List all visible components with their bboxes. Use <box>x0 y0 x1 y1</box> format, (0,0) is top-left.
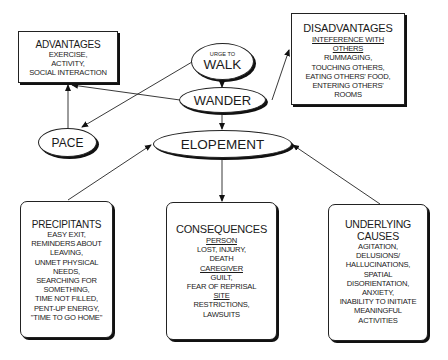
precipitants-title: PRECIPITANTS <box>21 219 112 230</box>
advantages-box: ADVANTAGES EXERCISE, ACTIVITY, SOCIAL IN… <box>18 31 118 83</box>
underlying-line: DISORIENTATION, <box>329 279 427 288</box>
underlying-title: CAUSES <box>329 230 427 242</box>
precipitants-line: EASY EXIT, <box>21 230 112 239</box>
caregiver-heading: CAREGIVER <box>167 264 276 273</box>
precipitants-line: "TIME TO GO HOME" <box>21 313 112 322</box>
elopement-node: ELOPEMENT <box>153 130 292 158</box>
disadvantages-line: EATING OTHERS' FOOD, <box>292 72 404 81</box>
person-heading: PERSON <box>167 236 276 245</box>
advantages-line: EXERCISE, <box>19 50 117 59</box>
underlying-line: SPATIAL <box>329 270 427 279</box>
pace-label: PACE <box>52 136 84 150</box>
consequences-line: LOST, INJURY, <box>167 245 276 254</box>
arrow-underlying-to-elopement <box>293 145 380 204</box>
underlying-line: AGITATION, <box>329 242 427 251</box>
consequences-title: CONSEQUENCES <box>167 223 276 236</box>
arrow-wander-to-advantages <box>72 85 180 100</box>
disadvantages-line: TOUCHING OTHERS, <box>292 63 404 72</box>
advantages-line: SOCIAL INTERACTION <box>19 68 117 77</box>
disadvantages-title: DISADVANTAGES <box>292 22 404 35</box>
underlying-line: ANXIETY, <box>329 288 427 297</box>
underlying-title: UNDERLYING <box>329 218 427 230</box>
consequences-line: FEAR OF REPRISAL <box>167 282 276 291</box>
wander-node: WANDER <box>179 87 266 113</box>
underlying-line: MEANINGFUL <box>329 306 427 315</box>
urge-to-walk-node: URGE TO WALK <box>191 43 254 80</box>
precipitants-line: LEAVING, <box>21 248 112 257</box>
consequences-line: DEATH <box>167 254 276 263</box>
site-heading: SITE <box>167 291 276 300</box>
precipitants-line: NEEDS, <box>21 267 112 276</box>
consequences-line: LAWSUITS <box>167 310 276 319</box>
precipitants-line: UNMET PHYSICAL <box>21 258 112 267</box>
precipitants-line: SOMETHING, <box>21 285 112 294</box>
disadvantages-subheading: OTHERS <box>292 44 404 53</box>
disadvantages-subheading: INTEFERENCE WITH <box>292 35 404 44</box>
underlying-causes-box: UNDERLYING CAUSES AGITATION, DELUSIONS/ … <box>328 204 428 341</box>
underlying-line: HALLUCINATIONS, <box>329 260 427 269</box>
disadvantages-line: RUMMAGING, <box>292 53 404 62</box>
precipitants-line: TIME NOT FILLED, <box>21 294 112 303</box>
consequences-line: RESTRICTIONS, <box>167 300 276 309</box>
consequences-box: CONSEQUENCES PERSON LOST, INJURY, DEATH … <box>166 202 277 340</box>
pace-node: PACE <box>38 128 97 157</box>
underlying-line: INABILITY TO INITIATE <box>329 297 427 306</box>
consequences-line: GUILT, <box>167 273 276 282</box>
elopement-label: ELOPEMENT <box>181 137 264 152</box>
advantages-line: ACTIVITY, <box>19 59 117 68</box>
arrow-wander-to-disadvantages <box>272 50 289 100</box>
precipitants-line: SEARCHING FOR <box>21 276 112 285</box>
precipitants-line: REMINDERS ABOUT <box>21 239 112 248</box>
precipitants-line: PENT-UP ENERGY, <box>21 304 112 313</box>
walk-label: WALK <box>204 58 242 72</box>
advantages-title: ADVANTAGES <box>19 39 117 50</box>
disadvantages-line: ROOMS <box>292 90 404 99</box>
underlying-line: ACTIVITIES <box>329 316 427 325</box>
precipitants-box: PRECIPITANTS EASY EXIT, REMINDERS ABOUT … <box>20 201 113 338</box>
underlying-line: DELUSIONS/ <box>329 251 427 260</box>
disadvantages-box: DISADVANTAGES INTEFERENCE WITH OTHERS RU… <box>291 13 405 105</box>
disadvantages-line: ENTERING OTHERS' <box>292 81 404 90</box>
wander-label: WANDER <box>194 93 251 108</box>
